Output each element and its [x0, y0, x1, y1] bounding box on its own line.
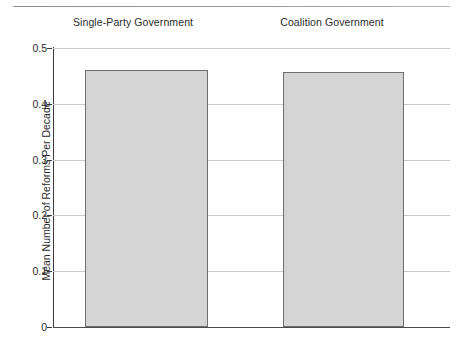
bar-chart-figure: Single-Party Government Coalition Govern…: [0, 0, 462, 346]
panel-title-coalition: Coalition Government: [252, 16, 412, 28]
gridline-0.5: [53, 48, 450, 49]
y-axis-title: Mean Number of Reforms Per Decade: [40, 26, 52, 346]
bar-single-party-government[interactable]: [85, 70, 208, 327]
panel-title-single-party: Single-Party Government: [53, 16, 213, 28]
top-divider-rule: [13, 6, 450, 7]
bar-coalition-government[interactable]: [283, 72, 404, 327]
x-axis-baseline: [53, 327, 450, 328]
plot-area: 0.5 0.4 0.3 0.2 0.1 0 Mean Number of Ref…: [53, 48, 450, 327]
